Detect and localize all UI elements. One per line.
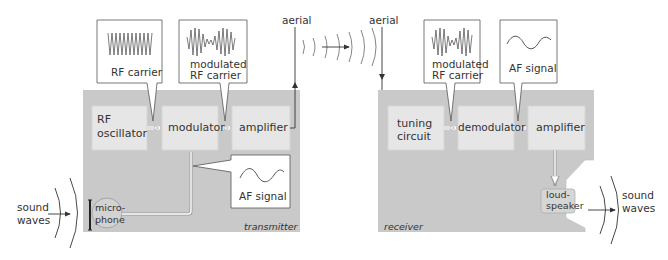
- amplifier-label-tx: amplifier: [239, 121, 288, 134]
- rf-carrier-label: RF carrier: [111, 66, 162, 78]
- loudspeaker-label-2: speaker: [546, 200, 584, 212]
- receiver-label: receiver: [384, 221, 423, 233]
- microphone-label-1: micro-: [95, 202, 125, 214]
- transmitter-label: transmitter: [244, 221, 298, 233]
- rf-oscillator-label-2: oscillator: [97, 127, 147, 140]
- amplifier-label-rx: amplifier: [536, 121, 585, 134]
- aerial-tx-label: aerial: [282, 14, 311, 26]
- microphone-label-2: phone: [95, 214, 125, 226]
- modulator-label: modulator: [168, 121, 225, 134]
- sound-waves-in-label-2: waves: [17, 214, 50, 226]
- sound-waves-in-label-1: sound: [17, 201, 49, 213]
- sound-waves-out-label-2: waves: [622, 202, 655, 214]
- rf-oscillator-label-1: RF: [97, 113, 111, 126]
- af-signal-label-rx: AF signal: [509, 62, 557, 74]
- aerial-rx-label: aerial: [369, 14, 398, 26]
- modulated-carrier-label-rx-2: RF carrier: [432, 69, 483, 81]
- demodulator-label: demodulator: [458, 121, 525, 134]
- tuning-circuit-label-2: circuit: [397, 130, 431, 143]
- modulated-carrier-label-tx-2: RF carrier: [190, 69, 241, 81]
- sound-waves-out-label-1: sound: [622, 189, 654, 201]
- af-signal-label-tx: AF signal: [239, 190, 287, 202]
- tuning-circuit-label-1: tuning: [397, 117, 432, 130]
